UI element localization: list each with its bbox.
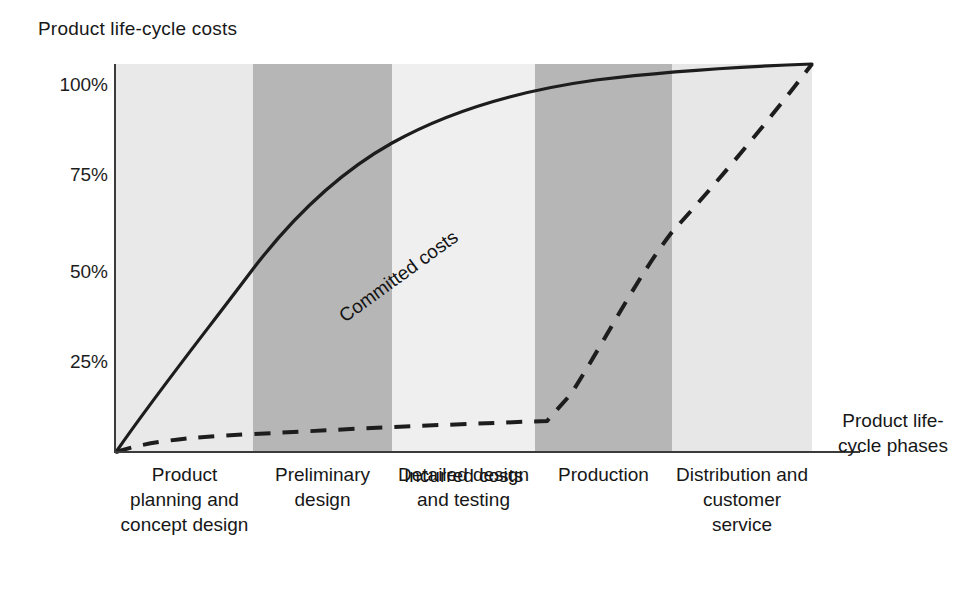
y-tick-50: 50% [34,261,108,283]
y-tick-100: 100% [34,74,108,96]
y-tick-75: 75% [34,164,108,186]
chart-root: Product life-cycle costs 100% 75% 50% 25… [0,0,968,590]
x-label-distribution: Distribution and customer service [672,462,812,537]
x-axis-tick-labels: Product planning and concept design Prel… [116,462,812,588]
x-axis-title: Product life-cycle phases [826,408,960,458]
plot-area: Committed costs Incurred costs [116,64,812,452]
x-label-preliminary-design: Preliminary design [253,462,392,512]
y-axis-line [114,64,116,453]
x-label-detailed-design: Detailed design and testing [392,462,535,512]
curve-layer [116,64,812,452]
incurred-costs-curve [116,64,812,452]
x-axis-line [114,451,860,453]
x-label-product-planning: Product planning and concept design [116,462,253,537]
y-tick-25: 25% [34,351,108,373]
x-label-production: Production [535,462,672,487]
y-axis-tick-labels: 100% 75% 50% 25% [30,0,108,590]
committed-costs-curve [116,64,812,452]
